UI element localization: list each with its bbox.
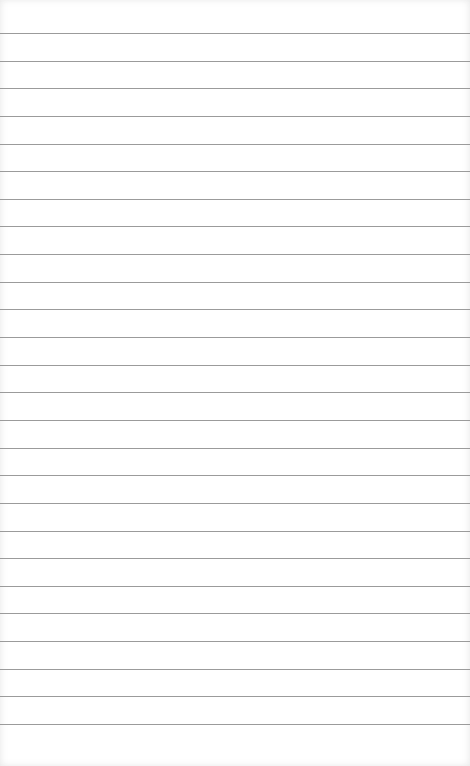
lined-notepad-page: [0, 0, 470, 766]
note-text-area[interactable]: [0, 0, 470, 766]
